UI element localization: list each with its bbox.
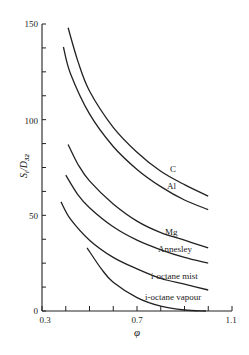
curve-label-Al: Al xyxy=(167,181,176,191)
y-tick-label: 100 xyxy=(25,116,39,126)
x-tick-label: 1.1 xyxy=(225,315,236,325)
curve-label-mist: i-octane mist xyxy=(151,271,198,281)
curve-label-Mg: Mg xyxy=(165,227,178,237)
chart: 150 100 50 0 0.3 0.7 1.1 φ St/D32 C Al M… xyxy=(0,0,249,355)
curve-mg xyxy=(68,145,208,248)
y-tick-label: 0 xyxy=(34,306,39,316)
x-tick-label: 0.7 xyxy=(131,315,143,325)
curves xyxy=(61,28,208,311)
y-ticks xyxy=(42,24,46,311)
x-tick-label: 0.3 xyxy=(39,315,51,325)
curve-label-C: C xyxy=(170,164,176,174)
axes xyxy=(42,24,232,311)
y-axis-title: St/D32 xyxy=(18,154,31,178)
x-axis-title: φ xyxy=(134,326,140,338)
curve-label-vapour: i-octane vapour xyxy=(145,292,201,302)
y-tick-label: 50 xyxy=(29,211,39,221)
y-tick-label: 150 xyxy=(25,19,39,29)
x-ticks xyxy=(42,306,232,311)
curve-label-Annesley: Annesley xyxy=(158,244,192,254)
svg-text:St/D32: St/D32 xyxy=(18,154,31,178)
